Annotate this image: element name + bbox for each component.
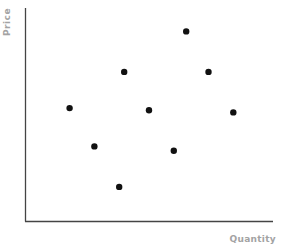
data-point xyxy=(205,69,211,75)
data-points xyxy=(66,28,236,190)
data-point xyxy=(91,143,97,149)
y-axis-label: Price xyxy=(2,8,16,40)
x-axis-label: Quantity xyxy=(230,234,277,244)
data-point xyxy=(183,28,189,34)
data-point xyxy=(121,69,127,75)
data-point xyxy=(66,105,72,111)
chart-canvas xyxy=(0,0,282,244)
data-point xyxy=(146,107,152,113)
data-point xyxy=(116,184,122,190)
data-point xyxy=(230,109,236,115)
data-point xyxy=(171,148,177,154)
scatter-chart: Price Quantity xyxy=(0,0,282,244)
